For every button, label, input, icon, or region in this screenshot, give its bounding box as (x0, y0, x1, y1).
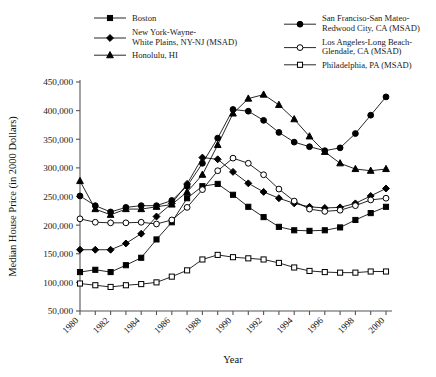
marker-filled-diamond (107, 246, 114, 253)
marker-filled-square (93, 267, 98, 272)
legend-label: New York-Wayne- (132, 27, 196, 37)
marker-filled-square (368, 211, 373, 216)
marker-open-circle (92, 219, 98, 225)
marker-filled-circle (307, 144, 313, 150)
legend-item[interactable] (94, 52, 126, 58)
marker-open-circle (169, 217, 175, 223)
marker-filled-square (246, 204, 251, 209)
marker-filled-circle (291, 139, 297, 145)
legend-item[interactable] (284, 21, 316, 27)
legend-label: Honolulu, HI (132, 50, 178, 60)
x-tick-label: 1980 (60, 315, 80, 335)
marker-open-circle (368, 197, 374, 203)
marker-filled-square (276, 224, 281, 229)
y-tick-label: 150,000 (43, 249, 73, 259)
x-tick-label: 2000 (366, 315, 386, 335)
marker-filled-triangle (337, 160, 344, 166)
x-tick-label: 1988 (183, 315, 203, 335)
marker-open-square (169, 274, 174, 279)
legend-label: Glendale, CA (MSAD) (322, 46, 402, 56)
marker-filled-square (261, 215, 266, 220)
x-tick-label: 1998 (336, 315, 356, 335)
marker-filled-triangle (107, 52, 114, 58)
marker-open-circle (108, 220, 114, 226)
marker-open-square (383, 269, 388, 274)
marker-filled-diamond (383, 185, 390, 192)
marker-open-square (108, 284, 113, 289)
marker-filled-square (338, 225, 343, 230)
marker-filled-circle (230, 107, 236, 113)
marker-open-circle (307, 206, 313, 212)
legend: BostonNew York-Wayne-White Plains, NY-NJ… (94, 13, 420, 70)
marker-open-square (215, 252, 220, 257)
marker-open-circle (353, 203, 359, 209)
marker-open-square (322, 270, 327, 275)
marker-open-square (93, 283, 98, 288)
marker-open-circle (184, 204, 190, 210)
marker-filled-circle (169, 198, 175, 204)
legend-item[interactable] (94, 35, 126, 42)
marker-open-square (246, 256, 251, 261)
x-tick-label: 1996 (305, 315, 325, 335)
legend-label: San Franciso-San Mateo- (322, 13, 409, 23)
legend-label: White Plains, NY-NJ (MSAD) (132, 37, 237, 47)
chart-figure: 450,000400,000350,000300,000250,000200,0… (0, 0, 436, 377)
marker-filled-square (139, 255, 144, 260)
marker-filled-diamond (260, 188, 267, 195)
marker-open-circle (138, 219, 144, 225)
marker-open-square (185, 268, 190, 273)
marker-open-circle (337, 207, 343, 213)
marker-filled-circle (383, 94, 389, 100)
x-tick-label: 1984 (122, 315, 142, 335)
marker-open-square (368, 269, 373, 274)
x-tick-label: 1994 (275, 315, 295, 335)
marker-open-circle (154, 221, 160, 227)
marker-open-circle (200, 187, 206, 193)
marker-open-circle (123, 220, 129, 226)
marker-open-square (139, 282, 144, 287)
x-tick-label: 1990 (213, 315, 233, 335)
legend-item[interactable] (284, 45, 316, 51)
legend-label: Boston (132, 13, 157, 23)
legend-label: Philadelphia, PA (MSAD) (322, 60, 412, 70)
marker-filled-square (322, 228, 327, 233)
marker-filled-circle (108, 209, 114, 215)
marker-filled-triangle (383, 165, 390, 171)
marker-filled-square (185, 196, 190, 201)
marker-open-square (338, 270, 343, 275)
marker-filled-triangle (260, 91, 267, 97)
marker-open-circle (297, 45, 303, 51)
marker-open-square (200, 257, 205, 262)
y-tick-label: 400,000 (43, 106, 73, 116)
marker-filled-diamond (77, 246, 84, 253)
legend-item[interactable] (94, 15, 126, 20)
marker-filled-triangle (199, 171, 206, 177)
x-tick-label: 1986 (152, 315, 172, 335)
marker-open-square (77, 281, 82, 286)
marker-filled-circle (276, 129, 282, 135)
marker-filled-diamond (92, 246, 99, 253)
marker-filled-diamond (275, 195, 282, 202)
marker-filled-circle (184, 183, 190, 189)
marker-open-circle (261, 172, 267, 178)
series-1 (77, 154, 390, 253)
legend-item[interactable] (284, 62, 316, 67)
marker-open-circle (322, 208, 328, 214)
marker-filled-circle (245, 108, 251, 114)
legend-label: Los Angeles-Long Beach- (322, 37, 412, 47)
marker-filled-square (307, 228, 312, 233)
marker-open-square (307, 268, 312, 273)
marker-open-square (230, 255, 235, 260)
marker-filled-circle (200, 160, 206, 166)
marker-open-circle (383, 195, 389, 201)
plot-area (77, 91, 390, 290)
marker-filled-circle (154, 203, 160, 209)
marker-filled-square (230, 192, 235, 197)
marker-open-square (353, 270, 358, 275)
marker-open-circle (215, 168, 221, 174)
marker-filled-square (292, 228, 297, 233)
marker-filled-circle (123, 204, 129, 210)
marker-open-square (276, 260, 281, 265)
marker-filled-diamond (107, 35, 114, 42)
marker-open-circle (245, 160, 251, 166)
